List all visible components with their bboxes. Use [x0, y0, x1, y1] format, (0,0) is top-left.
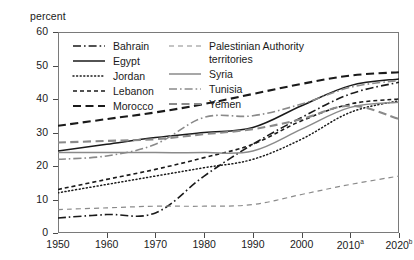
series-line-palestinian-authority-territories — [58, 176, 399, 210]
legend-label: Syria — [209, 68, 233, 81]
legend-swatch — [72, 55, 106, 67]
legend-item-jordan[interactable]: Jordan — [72, 70, 154, 84]
legend-item-yemen[interactable]: Yemen — [168, 98, 304, 112]
legend-column-left: BahrainEgyptJordanLebanonMorocco — [72, 40, 154, 114]
legend-label: Yemen — [209, 98, 241, 111]
series-lines-layer — [0, 0, 414, 260]
legend-label: Lebanon — [113, 85, 154, 98]
legend-label: Bahrain — [113, 40, 149, 53]
chart-container: percent 0102030405060 195019601970198019… — [0, 0, 414, 260]
legend-label: Jordan — [113, 70, 145, 83]
legend-swatch — [72, 85, 106, 97]
legend-item-tunisia[interactable]: Tunisia — [168, 83, 304, 97]
legend-swatch — [72, 70, 106, 82]
legend-item-egypt[interactable]: Egypt — [72, 55, 154, 69]
legend-swatch — [168, 98, 202, 110]
legend-item-morocco[interactable]: Morocco — [72, 100, 154, 114]
legend-label: Morocco — [113, 100, 153, 113]
legend-item-syria[interactable]: Syria — [168, 68, 304, 82]
legend-column-right: Palestinian Authority territoriesSyriaTu… — [168, 40, 304, 114]
legend-label: Egypt — [113, 55, 140, 68]
legend-swatch — [72, 40, 106, 52]
chart-legend: BahrainEgyptJordanLebanonMorocco Palesti… — [72, 40, 304, 114]
legend-label: Tunisia — [209, 83, 242, 96]
legend-swatch — [168, 40, 202, 52]
legend-item-lebanon[interactable]: Lebanon — [72, 85, 154, 99]
legend-label: Palestinian Authority territories — [209, 40, 304, 65]
legend-swatch — [72, 100, 106, 112]
legend-swatch — [168, 68, 202, 80]
legend-swatch — [168, 83, 202, 95]
legend-item-bahrain[interactable]: Bahrain — [72, 40, 154, 54]
legend-item-palestinian-authority[interactable]: Palestinian Authority territories — [168, 40, 304, 67]
